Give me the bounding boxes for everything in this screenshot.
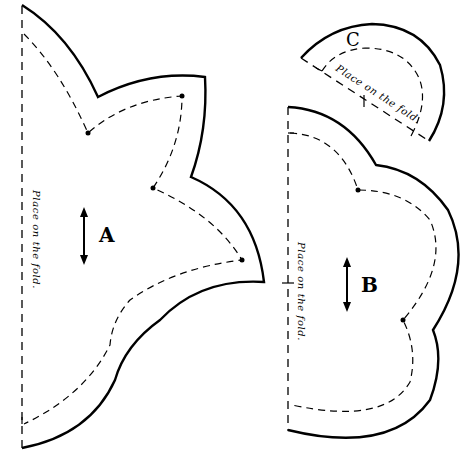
marking-dot — [86, 131, 91, 136]
fold-instruction-b: Place on the fold. — [296, 241, 307, 341]
grainline-arrow-icon-a — [80, 207, 88, 265]
cut-line-a — [22, 5, 264, 448]
marking-dot — [151, 186, 156, 191]
fold-instruction-c: Place on the fold. — [333, 62, 423, 126]
fold-instruction-a: Place on the fold. — [31, 189, 42, 289]
marking-dot — [401, 318, 406, 323]
marking-dot — [356, 188, 361, 193]
piece-label-c: C — [346, 29, 360, 50]
piece-label-b: B — [361, 273, 378, 297]
marking-dot — [180, 94, 185, 99]
marking-dot — [240, 258, 245, 263]
pattern-sheet: A Place on the fold. C Place on the fold… — [0, 0, 471, 463]
pattern-piece-a: A Place on the fold. — [22, 5, 264, 448]
piece-label-a: A — [98, 223, 115, 247]
grainline-arrow-icon-b — [343, 257, 351, 312]
seam-line-a — [24, 34, 242, 424]
pattern-piece-c: C Place on the fold. — [301, 24, 444, 141]
pattern-piece-b: B Place on the fold. — [282, 107, 459, 438]
